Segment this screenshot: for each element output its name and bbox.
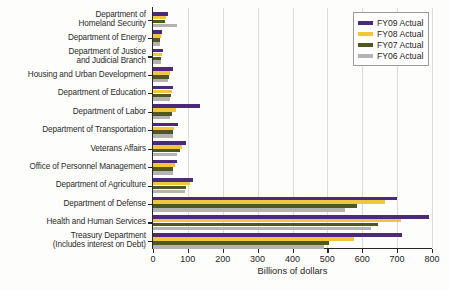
x-axis-tick [223,249,224,253]
bar [153,153,177,157]
bar [153,97,170,101]
bar [153,227,371,231]
gridline [258,8,259,248]
category-label: Department of Transportation [42,125,146,134]
bar [153,171,173,175]
bar [153,42,160,46]
category-label: Department of Homeland Security [79,10,146,28]
category-label: Department of Labor [73,107,146,116]
category-label: Veterans Affairs [90,144,146,153]
legend-label: FY08 Actual [377,29,423,39]
category-label: Department of Education [58,88,146,97]
category-label: Department of Energy [68,33,146,42]
legend-swatch [358,21,373,25]
legend-label: FY07 Actual [377,40,423,50]
x-axis-tick-label: 700 [390,254,405,264]
bar [153,208,345,212]
bar [153,245,324,249]
x-axis-tick-label: 400 [285,254,300,264]
x-axis-tick [188,249,189,253]
legend-item: FY07 Actual [358,39,423,50]
legend-item: FY08 Actual [358,28,423,39]
legend-swatch [358,54,373,58]
gridline [432,8,433,248]
x-axis-tick [327,249,328,253]
x-axis-tick-label: 600 [355,254,370,264]
legend-item: FY06 Actual [358,50,423,61]
legend: FY09 ActualFY08 ActualFY07 ActualFY06 Ac… [353,12,429,66]
gridline [188,8,189,248]
bar [153,79,168,83]
x-axis-tick-label: 500 [320,254,335,264]
bar [153,60,161,64]
category-label: Office of Personnel Management [29,162,146,171]
gridline [293,8,294,248]
legend-label: FY06 Actual [377,51,423,61]
x-axis-tick-label: 0 [150,254,155,264]
bar [153,24,177,28]
x-axis-tick [432,249,433,253]
bar [153,190,185,194]
bar-chart: Department of Homeland SecurityDepartmen… [0,0,449,291]
category-label: Treasury Department (Includes interest o… [53,231,146,249]
gridline [327,8,328,248]
x-axis-tick [397,249,398,253]
category-label: Department of Agriculture [56,180,146,189]
category-label: Department of Defense [63,199,146,208]
category-label: Department of Justice and Judicial Branc… [68,47,146,65]
bar [153,134,173,138]
legend-item: FY09 Actual [358,17,423,28]
x-axis-tick-label: 100 [180,254,195,264]
x-axis-tick [293,249,294,253]
x-axis-tick-label: 300 [250,254,265,264]
legend-swatch [358,43,373,47]
x-axis-tick-label: 200 [215,254,230,264]
gridline [223,8,224,248]
category-axis-labels: Department of Homeland SecurityDepartmen… [0,0,150,248]
x-axis-tick [362,249,363,253]
x-axis-tick [258,249,259,253]
bar [153,116,170,120]
category-label: Health and Human Services [47,217,146,226]
legend-label: FY09 Actual [377,18,423,28]
category-label: Housing and Urban Development [28,70,146,79]
x-axis-tick-label: 800 [424,254,439,264]
x-axis-tick [153,249,154,253]
x-axis-title: Billions of dollars [153,266,432,276]
legend-swatch [358,32,373,36]
